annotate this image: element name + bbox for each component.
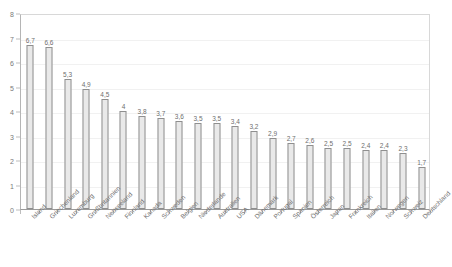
- bar[interactable]: [344, 148, 351, 209]
- bar[interactable]: [27, 45, 34, 209]
- y-axis-tick-label: 8: [0, 11, 14, 18]
- y-axis-tick-label: 7: [0, 35, 14, 42]
- y-axis-tick-label: 3: [0, 133, 14, 140]
- bar-value-label: 3,5: [212, 115, 221, 122]
- bar-slot: 4: [114, 15, 133, 209]
- bar[interactable]: [157, 118, 164, 209]
- bar[interactable]: [83, 89, 90, 209]
- bar-slot: 3,2: [245, 15, 264, 209]
- bar-value-label: 6,6: [44, 39, 53, 46]
- bar-slot: 2,5: [319, 15, 338, 209]
- bar-slot: 2,4: [356, 15, 375, 209]
- bar-slot: 4,5: [96, 15, 115, 209]
- bar-value-label: 2,4: [380, 142, 389, 149]
- bar[interactable]: [250, 131, 257, 209]
- bar-value-label: 4: [122, 103, 126, 110]
- bar-slot: 2,6: [301, 15, 320, 209]
- bar-slot: 1,7: [412, 15, 431, 209]
- bar-slot: 6,7: [21, 15, 40, 209]
- bar-value-label: 4,5: [100, 91, 109, 98]
- bar-value-label: 2,9: [268, 130, 277, 137]
- bar[interactable]: [381, 150, 388, 209]
- bar-value-label: 6,7: [26, 37, 35, 44]
- bar-slot: 2,5: [338, 15, 357, 209]
- bar-slot: 2,9: [263, 15, 282, 209]
- bar-value-label: 5,3: [63, 71, 72, 78]
- x-axis-labels: IslandGriechenlandLuxemburgGroßbritannie…: [20, 215, 430, 267]
- bar-slot: 3,8: [133, 15, 152, 209]
- bar[interactable]: [45, 47, 52, 209]
- bar-value-label: 3,2: [249, 123, 258, 130]
- bar-value-label: 4,9: [82, 81, 91, 88]
- bar-value-label: 3,6: [175, 113, 184, 120]
- bar[interactable]: [139, 116, 146, 209]
- bar-value-label: 2,5: [324, 140, 333, 147]
- y-axis-tick-label: 4: [0, 109, 14, 116]
- plot-area: 6,76,65,34,94,543,83,73,63,53,53,43,22,9…: [20, 14, 430, 210]
- bar-slot: 6,6: [40, 15, 59, 209]
- bar-slot: 3,4: [226, 15, 245, 209]
- bar-value-label: 2,7: [287, 135, 296, 142]
- bar-value-label: 2,3: [399, 145, 408, 152]
- bar-slot: 3,5: [189, 15, 208, 209]
- y-axis-tick-label: 0: [0, 207, 14, 214]
- bar-value-label: 2,6: [305, 137, 314, 144]
- y-axis-tick-label: 6: [0, 60, 14, 67]
- bar-series: 6,76,65,34,94,543,83,73,63,53,53,43,22,9…: [21, 15, 429, 209]
- bar-slot: 3,6: [170, 15, 189, 209]
- bar-value-label: 3,5: [194, 115, 203, 122]
- bar-slot: 5,3: [58, 15, 77, 209]
- bar-value-label: 1,7: [417, 159, 426, 166]
- y-axis-tick-label: 2: [0, 158, 14, 165]
- x-axis-tick-mark: [20, 210, 21, 214]
- bar-value-label: 2,5: [343, 140, 352, 147]
- bar-value-label: 3,4: [231, 118, 240, 125]
- y-axis-tick-label: 1: [0, 182, 14, 189]
- bar-slot: 3,5: [207, 15, 226, 209]
- bar-value-label: 2,4: [361, 142, 370, 149]
- bar-value-label: 3,7: [156, 110, 165, 117]
- bar-slot: 4,9: [77, 15, 96, 209]
- bar-slot: 2,3: [394, 15, 413, 209]
- bar-slot: 2,7: [282, 15, 301, 209]
- y-axis-tick-label: 5: [0, 84, 14, 91]
- bar-slot: 2,4: [375, 15, 394, 209]
- bar-value-label: 3,8: [138, 108, 147, 115]
- bar[interactable]: [64, 79, 71, 209]
- y-axis: 012345678: [0, 14, 14, 210]
- bar[interactable]: [195, 123, 202, 209]
- bar-slot: 3,7: [151, 15, 170, 209]
